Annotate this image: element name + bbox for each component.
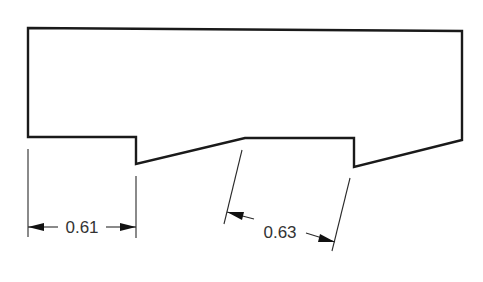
dimension-left: 0.61 xyxy=(28,149,136,238)
part-outline xyxy=(28,28,462,167)
arrowhead-right-icon xyxy=(318,234,335,242)
extension-line-right-b xyxy=(332,178,350,251)
dimension-right: 0.63 xyxy=(224,150,350,251)
technical-drawing: 0.61 0.63 xyxy=(0,0,483,282)
arrowhead-right-icon xyxy=(120,223,136,231)
arrowhead-left-icon xyxy=(28,223,44,231)
dimension-label-right: 0.63 xyxy=(263,223,296,242)
dimension-label-left: 0.61 xyxy=(65,218,98,237)
arrowhead-left-icon xyxy=(227,212,244,220)
